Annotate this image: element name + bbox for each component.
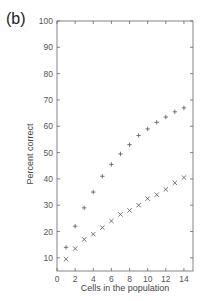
plus-marker <box>109 162 113 166</box>
y-tick-label: 10 <box>44 253 54 263</box>
plus-marker <box>155 120 159 124</box>
y-axis-title: Percent correct <box>25 123 35 185</box>
cross-marker <box>82 237 86 241</box>
cross-marker <box>164 187 168 191</box>
y-tick-label: 80 <box>44 69 54 79</box>
cross-marker <box>100 225 104 229</box>
plus-marker <box>91 190 95 194</box>
y-tick-label: 40 <box>44 174 54 184</box>
plus-marker <box>82 206 86 210</box>
cross-marker <box>118 212 122 216</box>
cross-marker <box>91 232 95 236</box>
x-tick-label: 2 <box>73 274 78 284</box>
scatter-chart: 10203040506070809010002468101214Cells in… <box>0 0 205 301</box>
cross-marker <box>73 246 77 250</box>
plus-marker <box>73 224 77 228</box>
plus-marker <box>136 133 140 137</box>
cross-marker <box>182 175 186 179</box>
y-tick-label: 20 <box>44 227 54 237</box>
y-tick-label: 50 <box>44 148 54 158</box>
cross-marker <box>155 192 159 196</box>
cross-marker <box>136 203 140 207</box>
plus-marker <box>145 127 149 131</box>
y-tick-label: 60 <box>44 121 54 131</box>
plus-marker <box>164 115 168 119</box>
cross-marker <box>127 208 131 212</box>
cross-marker <box>145 196 149 200</box>
y-tick-label: 90 <box>44 42 54 52</box>
plus-marker <box>64 245 68 249</box>
x-tick-label: 0 <box>55 274 60 284</box>
plus-marker <box>118 152 122 156</box>
plus-marker <box>127 142 131 146</box>
y-tick-label: 70 <box>44 95 54 105</box>
cross-marker <box>173 181 177 185</box>
cross-marker <box>109 219 113 223</box>
x-axis-title: Cells in the population <box>81 283 170 293</box>
plot-frame <box>57 21 193 271</box>
y-tick-label: 100 <box>39 16 53 26</box>
y-tick-label: 30 <box>44 200 54 210</box>
plus-marker <box>182 106 186 110</box>
cross-marker <box>64 257 68 261</box>
plus-marker <box>100 174 104 178</box>
plus-marker <box>173 110 177 114</box>
x-tick-label: 14 <box>179 274 189 284</box>
